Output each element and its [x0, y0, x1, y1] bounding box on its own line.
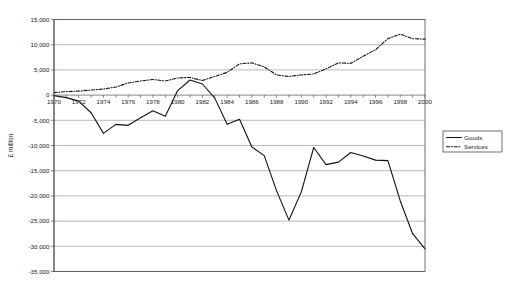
- line-chart: 15,00010,0005,0000-5,000-10,000-15,000-2…: [0, 0, 511, 287]
- x-axis-tick-label: 1988: [270, 98, 284, 105]
- x-axis-tick-label: 1992: [319, 98, 333, 105]
- series-line-goods: [54, 80, 425, 249]
- y-axis-tick-label: -20,000: [29, 192, 51, 199]
- y-axis-title: £ million: [7, 133, 14, 157]
- y-axis-tick-label: -35,000: [29, 268, 51, 275]
- x-axis-tick-label: 1986: [245, 98, 259, 105]
- x-axis-tick-label: 1994: [344, 98, 358, 105]
- gridlines: [54, 20, 425, 272]
- x-axis-tick-label: 1990: [294, 98, 308, 105]
- data-series: [54, 34, 425, 249]
- x-axis-ticks: 1970197219741976197819801982198419861988…: [47, 95, 432, 105]
- y-axis-tick-label: -30,000: [29, 243, 51, 250]
- x-axis-tick-label: 1976: [121, 98, 135, 105]
- y-axis-tick-label: 15,000: [31, 16, 50, 23]
- y-axis-tick-labels: 15,00010,0005,0000-5,000-10,000-15,000-2…: [29, 16, 55, 275]
- x-axis-tick-label: 1974: [97, 98, 111, 105]
- y-axis-tick-label: 10,000: [31, 41, 50, 48]
- x-axis-tick-label: 1996: [369, 98, 383, 105]
- chart-container: 15,00010,0005,0000-5,000-10,000-15,000-2…: [0, 0, 511, 287]
- legend-label-services: Services: [464, 143, 488, 150]
- y-axis-tick-label: -5,000: [32, 117, 50, 124]
- y-axis-tick-label: -10,000: [29, 142, 51, 149]
- legend-label-goods: Goods: [464, 134, 482, 141]
- y-axis-tick-label: 5,000: [34, 66, 50, 73]
- y-axis-tick-label: -25,000: [29, 217, 51, 224]
- chart-legend: GoodsServices: [443, 131, 502, 152]
- y-axis-tick-label: -15,000: [29, 167, 51, 174]
- x-axis-tick-label: 1998: [393, 98, 407, 105]
- x-axis-tick-label: 1982: [196, 98, 210, 105]
- series-line-services: [54, 34, 425, 92]
- x-axis-tick-label: 1984: [220, 98, 234, 105]
- x-axis-tick-label: 1978: [146, 98, 160, 105]
- y-axis-title-text: £ million: [7, 133, 14, 157]
